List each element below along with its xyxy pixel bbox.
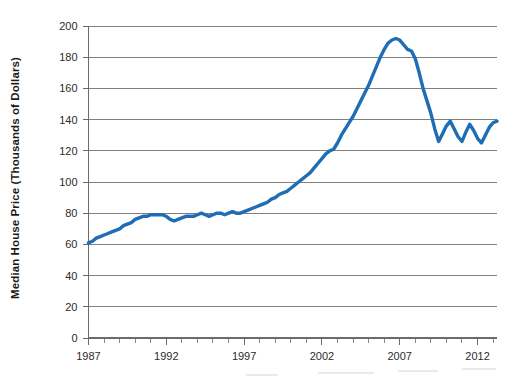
y-tick-label: 20 xyxy=(65,301,77,313)
y-tick-labels-group: 020406080100120140160180200 xyxy=(59,20,77,344)
x-tick-label: 2012 xyxy=(465,350,489,362)
y-tick-label: 140 xyxy=(59,114,77,126)
x-minor-tickmarks-group xyxy=(89,338,494,345)
y-tick-label: 160 xyxy=(59,82,77,94)
plot-area: 020406080100120140160180200 198719921997… xyxy=(0,0,514,390)
y-tick-label: 60 xyxy=(65,238,77,250)
x-tick-label: 1992 xyxy=(154,350,178,362)
data-series-line xyxy=(89,38,498,242)
y-tick-label: 80 xyxy=(65,207,77,219)
y-tick-label: 120 xyxy=(59,145,77,157)
y-tick-label: 200 xyxy=(59,20,77,32)
x-tick-label: 2007 xyxy=(387,350,411,362)
x-tick-label: 2002 xyxy=(310,350,334,362)
y-tick-label: 180 xyxy=(59,51,77,63)
x-tick-labels-group: 198719921997200220072012 xyxy=(76,350,490,362)
x-tick-label: 1997 xyxy=(232,350,256,362)
gridlines-group xyxy=(89,26,498,338)
house-price-chart: Median House Price (Thousands of Dollars… xyxy=(0,0,514,390)
y-tick-label: 100 xyxy=(59,176,77,188)
y-tickmarks-group xyxy=(83,26,89,338)
x-tick-label: 1987 xyxy=(76,350,100,362)
y-tick-label: 0 xyxy=(71,332,77,344)
y-tick-label: 40 xyxy=(65,270,77,282)
